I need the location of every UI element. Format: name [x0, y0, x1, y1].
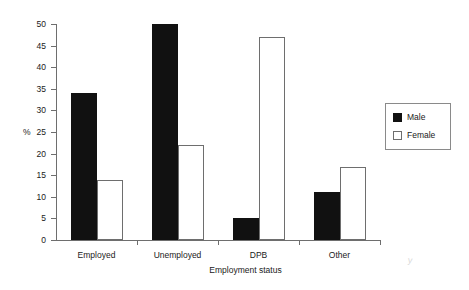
x-axis-title: Employment status — [11, 265, 469, 275]
y-tick-label: 45 — [20, 42, 46, 51]
y-tick — [51, 240, 57, 241]
bar-female-employed — [97, 180, 123, 240]
bar-male-other — [314, 192, 340, 240]
y-tick-label: 20 — [20, 150, 46, 159]
plot-area — [56, 24, 380, 240]
y-tick-label: 25 — [20, 128, 46, 137]
y-tick-label: 35 — [20, 85, 46, 94]
bar-female-dpb — [259, 37, 285, 240]
x-tick — [380, 240, 381, 245]
y-tick-label: 10 — [20, 193, 46, 202]
legend: Male Female — [385, 103, 451, 150]
bar-male-unemployed — [152, 24, 178, 240]
legend-label-female: Female — [407, 131, 435, 140]
legend-swatch-male-icon — [393, 113, 402, 122]
y-tick-label: 30 — [20, 106, 46, 115]
legend-swatch-female-icon — [393, 131, 402, 140]
scan-speckle-artifact: y — [407, 255, 413, 266]
legend-item-female: Female — [393, 130, 435, 141]
x-tick — [218, 240, 219, 245]
bar-male-dpb — [233, 218, 259, 240]
y-tick-label: 0 — [20, 236, 46, 245]
bar-female-unemployed — [178, 145, 204, 240]
x-category-label-dpb: DPB — [218, 250, 299, 260]
y-tick-label: 40 — [20, 63, 46, 72]
x-tick — [137, 240, 138, 245]
y-tick-label: 5 — [20, 214, 46, 223]
x-category-label-other: Other — [299, 250, 380, 260]
y-tick-label: 15 — [20, 171, 46, 180]
bar-chart: % 05101520253035404550 EmployedUnemploye… — [0, 0, 469, 290]
legend-label-male: Male — [407, 113, 425, 122]
legend-item-male: Male — [393, 112, 425, 123]
bar-male-employed — [71, 93, 97, 240]
x-tick — [299, 240, 300, 245]
bar-female-other — [340, 167, 366, 240]
y-tick-label: 50 — [20, 20, 46, 29]
x-category-label-unemployed: Unemployed — [137, 250, 218, 260]
x-category-label-employed: Employed — [56, 250, 137, 260]
